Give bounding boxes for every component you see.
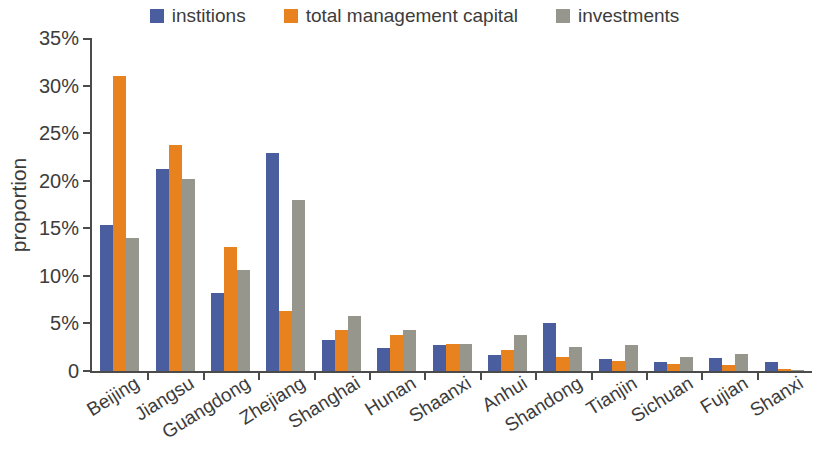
legend-label: investments [578,6,679,25]
bar[interactable] [292,200,305,371]
bar[interactable] [459,344,472,371]
y-axis-tick-label: 25% [39,123,79,143]
bar[interactable] [599,359,612,371]
bar[interactable] [446,344,459,371]
legend-swatch-icon [150,9,164,23]
bar[interactable] [514,335,527,371]
bar-groups [92,38,812,371]
bar[interactable] [335,330,348,371]
x-axis-category-label: Shaanxi [406,373,474,426]
bar[interactable] [390,335,403,371]
bar[interactable] [791,370,804,371]
bar[interactable] [322,340,335,371]
bar[interactable] [765,362,778,372]
bar[interactable] [169,145,182,371]
bar[interactable] [612,361,625,371]
y-axis-tick [83,322,90,324]
legend-entry[interactable]: investments [556,6,679,25]
bar[interactable] [433,345,446,371]
bar-chart-figure: institionstotal management capitalinvest… [0,0,829,466]
y-axis-tick [83,132,90,134]
y-axis-tick-label: 30% [39,76,79,96]
bar[interactable] [778,369,791,371]
y-axis-tick [83,227,90,229]
bar[interactable] [488,355,501,371]
x-axis-category-label: Shanxi [747,373,806,420]
legend-swatch-icon [556,9,570,23]
legend-label: total management capital [306,6,518,25]
bar[interactable] [709,358,722,371]
bar-group [701,38,756,371]
bar-group [480,38,535,371]
bar-group [535,38,590,371]
y-axis-tick [83,38,90,40]
x-axis-labels: BeijingJiangsuGuangdongZhejiangShanghaiH… [92,373,812,466]
bar[interactable] [680,357,693,371]
y-axis-tick [83,85,90,87]
bar[interactable] [556,357,569,371]
bar[interactable] [279,311,292,371]
bar[interactable] [735,354,748,371]
plot-area: proportion 35%30%25%20%15%10%5%0 [90,38,812,371]
legend-entry[interactable]: institions [150,6,246,25]
bar-group [92,38,147,371]
y-axis-tick [83,275,90,277]
bar[interactable] [377,348,390,371]
y-axis-tick [83,180,90,182]
y-axis-title: proportion [8,157,29,252]
y-axis-tick-label: 0 [68,361,79,381]
y-axis-tick [83,370,90,372]
legend-swatch-icon [284,9,298,23]
bar[interactable] [722,365,735,371]
bar[interactable] [100,225,113,371]
bar[interactable] [625,345,638,371]
bar[interactable] [266,153,279,371]
y-axis-tick-label: 15% [39,218,79,238]
x-axis-category-label: Sichuan [627,373,695,426]
bar[interactable] [211,293,224,371]
bar-group [314,38,369,371]
bar-group [424,38,479,371]
bar[interactable] [182,179,195,371]
x-axis-category-label: Fujian [697,373,751,417]
bar[interactable] [543,323,556,371]
bar[interactable] [667,364,680,371]
y-axis-tick-label: 20% [39,171,79,191]
bar[interactable] [348,316,361,371]
y-axis-tick-label: 5% [50,313,79,333]
bar[interactable] [501,350,514,371]
y-axis-tick-label: 35% [39,28,79,48]
y-axis-tick-label: 10% [39,266,79,286]
bar-group [646,38,701,371]
bar[interactable] [654,362,667,371]
bar[interactable] [224,247,237,371]
bar-group [258,38,313,371]
bar[interactable] [113,76,126,371]
x-axis-category-label: Beijing [83,373,141,419]
bar[interactable] [126,238,139,371]
bar[interactable] [156,169,169,371]
bar[interactable] [403,330,416,371]
bar[interactable] [569,347,582,371]
bar-group [147,38,202,371]
legend-entry[interactable]: total management capital [284,6,518,25]
bar-group [203,38,258,371]
bar-group [369,38,424,371]
bar-group [591,38,646,371]
chart-legend: institionstotal management capitalinvest… [0,6,829,25]
bar[interactable] [237,270,250,371]
legend-label: institions [172,6,246,25]
bar-group [757,38,812,371]
